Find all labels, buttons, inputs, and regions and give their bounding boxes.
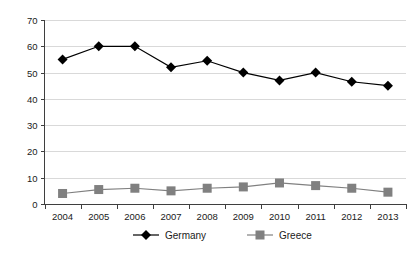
x-tick-label-2007: 2007 — [160, 211, 181, 222]
legend-square-marker-greece — [256, 231, 265, 240]
y-tick-label: 20 — [27, 146, 38, 157]
x-tick-label-2005: 2005 — [88, 211, 109, 222]
y-tick-label: 70 — [27, 15, 38, 26]
x-tick-label-2010: 2010 — [269, 211, 290, 222]
data-point-greece-2007 — [167, 186, 176, 195]
y-tick-label: 60 — [27, 41, 38, 52]
legend-label-greece: Greece — [279, 230, 312, 241]
data-point-greece-2013 — [383, 188, 392, 197]
x-tick-label-2013: 2013 — [377, 211, 398, 222]
chart-canvas: 010203040506070 200420052006200720082009… — [0, 0, 420, 256]
x-tick-label-2004: 2004 — [52, 211, 73, 222]
y-tick-label: 0 — [32, 199, 37, 210]
x-tick-label-2009: 2009 — [233, 211, 254, 222]
y-tick-label: 30 — [27, 120, 38, 131]
y-tick-label: 50 — [27, 68, 38, 79]
data-point-greece-2012 — [347, 184, 356, 193]
line-chart-figure: 010203040506070 200420052006200720082009… — [0, 0, 420, 256]
x-tick-label-2008: 2008 — [197, 211, 218, 222]
y-tick-label: 40 — [27, 94, 38, 105]
y-tick-label: 10 — [27, 173, 38, 184]
data-point-greece-2010 — [275, 178, 284, 187]
x-tick-label-2006: 2006 — [124, 211, 145, 222]
data-point-greece-2004 — [58, 189, 67, 198]
data-point-greece-2008 — [203, 184, 212, 193]
legend-label-germany: Germany — [165, 230, 206, 241]
data-point-greece-2011 — [311, 181, 320, 190]
data-point-greece-2005 — [94, 185, 103, 194]
data-point-greece-2006 — [130, 184, 139, 193]
data-point-greece-2009 — [239, 182, 248, 191]
x-tick-label-2011: 2011 — [305, 211, 325, 222]
x-tick-label-2012: 2012 — [341, 211, 362, 222]
